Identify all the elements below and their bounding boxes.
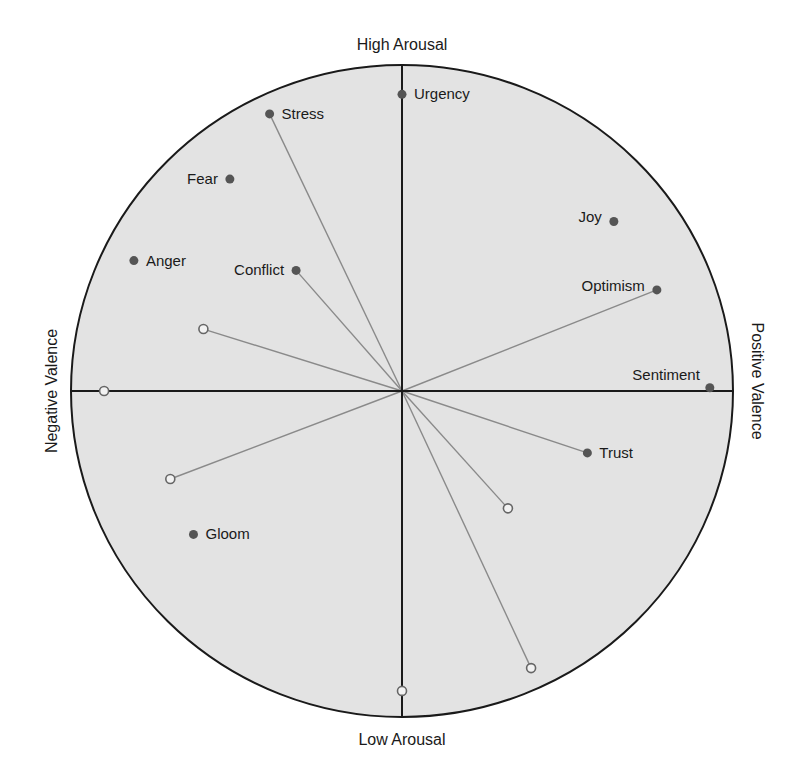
point-label: Urgency	[414, 85, 470, 102]
axis-label-positive-valence: Positive Valence	[749, 322, 766, 439]
circumplex-chart: UrgencyStressFearJoyAngerConflictOptimis…	[0, 0, 805, 780]
data-point	[265, 109, 274, 118]
open-data-point	[100, 387, 109, 396]
axis-label-high-arousal: High Arousal	[357, 36, 448, 53]
axis-label-low-arousal: Low Arousal	[358, 731, 445, 748]
open-data-point	[527, 664, 536, 673]
data-point	[129, 256, 138, 265]
point-label: Joy	[578, 208, 602, 225]
point-label: Optimism	[582, 277, 645, 294]
data-point	[398, 90, 407, 99]
point-label: Trust	[599, 444, 633, 461]
open-data-point	[199, 325, 208, 334]
point-label: Stress	[282, 105, 325, 122]
point-label: Anger	[146, 252, 186, 269]
point-label: Conflict	[234, 261, 285, 278]
data-point	[652, 285, 661, 294]
axis-label-negative-valence: Negative Valence	[43, 329, 60, 453]
data-point	[292, 266, 301, 275]
point-label: Sentiment	[632, 366, 700, 383]
data-point	[189, 530, 198, 539]
point-label: Fear	[187, 170, 218, 187]
point-label: Gloom	[205, 525, 249, 542]
data-point	[583, 448, 592, 457]
open-data-point	[503, 504, 512, 513]
open-data-point	[398, 686, 407, 695]
data-point	[225, 175, 234, 184]
data-point	[705, 383, 714, 392]
data-point	[609, 217, 618, 226]
open-data-point	[166, 475, 175, 484]
